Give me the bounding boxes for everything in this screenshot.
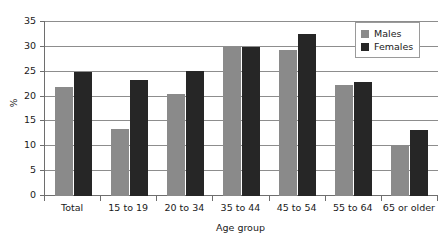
x-tick-label: 65 or older (381, 202, 437, 213)
legend-label-females: Females (374, 41, 413, 52)
bar-females (74, 72, 92, 196)
x-tick-mark (381, 196, 382, 201)
x-tick-label: 45 to 54 (269, 202, 325, 213)
bar-males (279, 50, 297, 196)
bar-group (270, 21, 326, 196)
x-tick-mark (44, 196, 45, 201)
x-tick-mark (156, 196, 157, 201)
x-tick-label: 55 to 64 (325, 202, 381, 213)
y-tick-label: 0 (10, 189, 36, 200)
legend-item-females: Females (361, 40, 413, 53)
legend-label-males: Males (374, 28, 401, 39)
bar-group (101, 21, 157, 196)
bar-females (410, 130, 428, 196)
x-axis-labels: Total15 to 1920 to 3435 to 4445 to 5455 … (44, 202, 437, 213)
bar-group (157, 21, 213, 196)
y-tick-label: 35 (10, 15, 36, 26)
y-tick-label: 30 (10, 40, 36, 51)
bar-group (45, 21, 101, 196)
legend-swatch-males-icon (361, 30, 369, 38)
y-tick-label: 25 (10, 65, 36, 76)
x-tick-label: 15 to 19 (100, 202, 156, 213)
legend-item-males: Males (361, 27, 413, 40)
x-axis-title: Age group (44, 222, 437, 233)
x-tick-label: 20 to 34 (156, 202, 212, 213)
bar-females (130, 80, 148, 196)
x-tick-mark (325, 196, 326, 201)
legend-swatch-females-icon (361, 43, 369, 51)
x-tick-label: Total (44, 202, 100, 213)
bar-males (391, 145, 409, 196)
bar-males (223, 47, 241, 196)
bar-females (298, 34, 316, 196)
bar-chart: % 05101520253035 Total15 to 1920 to 3435… (0, 0, 446, 246)
x-tick-mark (100, 196, 101, 201)
x-tick-mark (212, 196, 213, 201)
bar-males (111, 129, 129, 196)
x-tick-mark (269, 196, 270, 201)
x-tick-mark (437, 196, 438, 201)
y-tick-label: 15 (10, 114, 36, 125)
x-tick-label: 35 to 44 (212, 202, 268, 213)
chart-legend: Males Females (355, 22, 420, 58)
bar-females (354, 82, 372, 196)
y-tick-label: 10 (10, 139, 36, 150)
bar-males (335, 85, 353, 196)
bar-females (242, 47, 260, 196)
bar-males (167, 94, 185, 196)
bar-males (55, 87, 73, 196)
bar-females (186, 71, 204, 196)
bar-group (213, 21, 269, 196)
y-tick-label: 20 (10, 90, 36, 101)
y-tick-label: 5 (10, 164, 36, 175)
